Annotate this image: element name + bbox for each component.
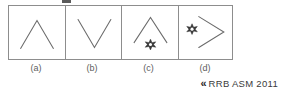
option-panel-strip [8, 5, 233, 60]
chevron-up-with-star-icon [122, 6, 178, 59]
option-label-c: (c) [120, 62, 177, 75]
source-attribution: «RRB ASM 2011 [200, 77, 278, 90]
option-panel-d[interactable] [178, 6, 234, 59]
option-label-d: (d) [177, 62, 233, 75]
option-label-b: (b) [64, 62, 120, 75]
option-panel-a[interactable] [9, 6, 65, 59]
chevron-right-with-star-icon [179, 6, 234, 59]
reasoning-figure: (a) (b) (c) (d) «RRB ASM 2011 [0, 0, 282, 93]
option-panel-c[interactable] [121, 6, 178, 59]
option-panel-b[interactable] [65, 6, 121, 59]
option-label-row: (a) (b) (c) (d) [8, 62, 233, 75]
double-left-angle-marker-icon: « [200, 77, 206, 89]
six-pointed-star-icon [145, 39, 156, 50]
chevron-up-icon [9, 6, 65, 59]
option-label-a: (a) [8, 62, 64, 75]
source-exam-text: RRB ASM 2011 [209, 78, 278, 89]
six-pointed-star-icon [187, 24, 198, 35]
cropped-text-artifact [62, 0, 71, 3]
chevron-down-icon [66, 6, 121, 59]
